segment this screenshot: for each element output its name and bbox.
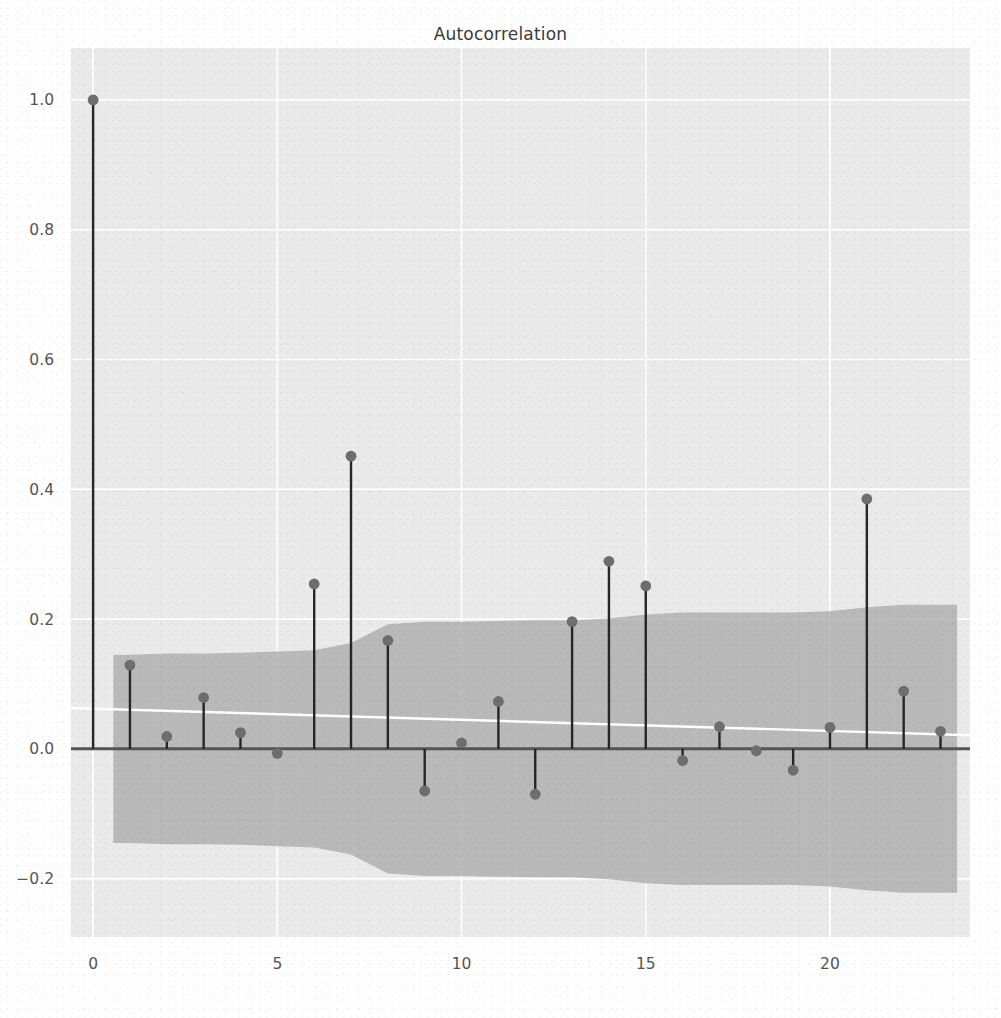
x-tick-label: 0 (88, 955, 98, 973)
data-point-marker (640, 581, 651, 592)
x-tick-label: 20 (820, 955, 840, 973)
x-tick-label: 15 (636, 955, 656, 973)
data-point-marker (88, 95, 99, 106)
data-point-marker (456, 738, 467, 749)
data-point-marker (935, 726, 946, 737)
data-point-marker (898, 686, 909, 697)
data-point-marker (493, 696, 504, 707)
data-point-marker (567, 616, 578, 627)
data-point-marker (125, 660, 136, 671)
data-point-marker (714, 721, 725, 732)
data-point-marker (198, 692, 209, 703)
autocorrelation-figure: Autocorrelation 1.00.80.60.40.20.0−0.2 0… (0, 0, 1001, 1018)
x-tick-label: 5 (272, 955, 282, 973)
y-tick-label: 0.2 (29, 611, 54, 629)
y-tick-label: 0.0 (29, 740, 54, 758)
data-point-marker (235, 727, 246, 738)
data-point-marker (272, 748, 283, 759)
stem-lag-18 (751, 745, 762, 756)
data-point-marker (161, 731, 172, 742)
x-axis-tick-labels: 05101520 (88, 955, 840, 973)
y-tick-label: 0.4 (29, 481, 54, 499)
data-point-marker (825, 722, 836, 733)
y-tick-label: −0.2 (16, 870, 54, 888)
stem-lag-5 (272, 748, 283, 759)
data-point-marker (309, 579, 320, 590)
data-point-marker (604, 556, 615, 567)
data-point-marker (677, 755, 688, 766)
data-point-marker (530, 789, 541, 800)
y-tick-label: 0.6 (29, 351, 54, 369)
data-point-marker (861, 494, 872, 505)
y-tick-label: 1.0 (29, 91, 54, 109)
data-point-marker (788, 765, 799, 776)
y-tick-label: 0.8 (29, 221, 54, 239)
data-point-marker (382, 635, 393, 646)
plot-canvas: 1.00.80.60.40.20.0−0.2 05101520 (0, 0, 1001, 1018)
data-point-marker (751, 745, 762, 756)
y-axis-tick-labels: 1.00.80.60.40.20.0−0.2 (16, 91, 54, 888)
data-point-marker (346, 451, 357, 462)
data-point-marker (419, 786, 430, 797)
x-tick-label: 10 (452, 955, 472, 973)
